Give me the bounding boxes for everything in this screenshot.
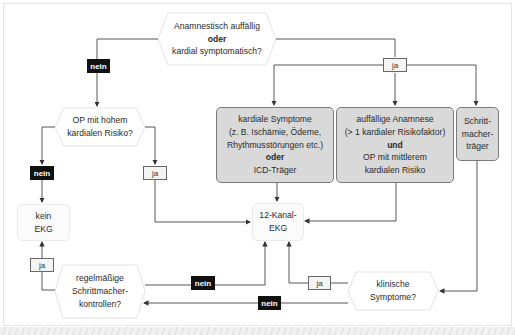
label-checks-yes: ja	[30, 258, 54, 272]
decision-text: Anamnestisch auffällig	[174, 20, 260, 33]
box-connector-or: oder	[266, 151, 285, 164]
decision-op-high-risk: OP mit hohem kardialen Risiko?	[57, 108, 143, 146]
box-text: Rhythmusstörungen etc.)	[227, 139, 323, 152]
decision-text: Symptome?	[370, 291, 416, 304]
label-top-yes: ja	[383, 58, 407, 72]
label-clinical-yes: ja	[308, 276, 331, 290]
terminal-text: 12-Kanal-	[259, 209, 296, 222]
box-text: OP mit mittlerem	[363, 151, 427, 164]
decision-text: klinische	[377, 278, 410, 291]
label-clinical-no: nein	[258, 296, 281, 310]
decision-anamnestic-or-symptomatic: Anamnestisch auffällig oder kardial symp…	[160, 13, 274, 65]
terminal-no-ecg: kein EKG	[17, 204, 70, 241]
decision-clinical-symptoms: klinische Symptome?	[350, 272, 436, 310]
box-text: kardialen Risiko	[365, 164, 426, 177]
terminal-text: EKG	[34, 223, 52, 236]
box-connector-and: und	[387, 139, 403, 152]
box-text: träger	[466, 140, 488, 153]
terminal-12-lead-ecg: 12-Kanal- EKG	[252, 203, 304, 241]
box-text: macher-	[462, 128, 494, 141]
box-text: ICD-Träger	[254, 164, 297, 177]
box-text: (> 1 kardialer Risikofaktor)	[345, 126, 446, 139]
box-text: kardiale Symptome	[238, 113, 312, 126]
box-abnormal-history: auffällige Anamnese (> 1 kardialer Risik…	[336, 107, 454, 183]
label-top-no: nein	[87, 59, 110, 73]
box-text: auffällige Anamnese	[356, 113, 433, 126]
box-cardiac-symptoms: kardiale Symptome (z. B. Ischämie, Ödeme…	[216, 107, 334, 183]
decision-regular-pacemaker-checks: regelmäßige Schrittmacher- kontrollen?	[57, 265, 143, 318]
box-pacemaker-carrier: Schritt- macher- träger	[456, 107, 499, 161]
label-op-yes: ja	[143, 166, 167, 180]
label-checks-no: nein	[191, 276, 215, 290]
terminal-text: kein	[36, 210, 52, 223]
decision-text: kontrollen?	[79, 298, 121, 311]
label-op-no: nein	[30, 166, 54, 180]
box-text: Schritt-	[464, 115, 491, 128]
box-text: (z. B. Ischämie, Ödeme,	[229, 126, 321, 139]
decision-text: OP mit hohem	[73, 114, 128, 127]
decision-connector-or: oder	[208, 33, 227, 46]
decision-text: kardialen Risiko?	[67, 127, 132, 140]
decision-text: Schrittmacher-	[72, 285, 128, 298]
terminal-text: EKG	[269, 222, 287, 235]
decision-text: regelmäßige	[76, 272, 124, 285]
decision-text: kardial symptomatisch?	[172, 45, 262, 58]
